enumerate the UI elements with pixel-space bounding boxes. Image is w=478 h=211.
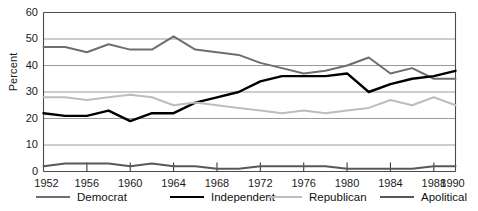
chart-legend: DemocratIndependentRepublicanApolitical [0,187,478,211]
legend-item: Apolitical [380,190,467,204]
legend-swatch-icon [36,196,70,198]
legend-label: Apolitical [421,191,467,203]
legend-label: Republican [309,191,367,203]
legend-swatch-icon [268,196,302,198]
legend-label: Independent [211,191,275,203]
series-line-democrat [44,36,456,78]
line-chart: Percent 6050403020100 195219561960196419… [0,0,478,211]
legend-swatch-icon [380,196,414,198]
legend-item: Democrat [36,190,127,204]
legend-item: Republican [268,190,367,204]
legend-swatch-icon [170,196,204,198]
legend-item: Independent [170,190,275,204]
plot-area [0,0,478,211]
series-line-independent [44,71,456,121]
series-line-apolitical [44,164,456,169]
legend-label: Democrat [77,191,127,203]
